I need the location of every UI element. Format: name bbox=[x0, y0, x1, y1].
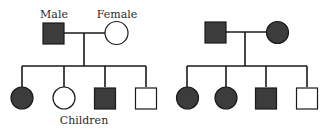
child-female-unaffected bbox=[53, 87, 75, 109]
child-female-affected bbox=[177, 87, 199, 109]
child-male-affected bbox=[95, 88, 116, 109]
family-right bbox=[177, 22, 318, 110]
parent-male-affected bbox=[43, 23, 64, 44]
parent-male-affected bbox=[205, 22, 226, 43]
pedigree-diagram: Male Female Children bbox=[0, 0, 326, 129]
child-male-unaffected bbox=[136, 88, 157, 109]
child-male-unaffected bbox=[297, 88, 318, 109]
child-female-affected bbox=[11, 87, 33, 109]
male-label: Male bbox=[40, 8, 68, 21]
family-left: Male Female Children bbox=[11, 8, 157, 127]
female-label: Female bbox=[97, 8, 138, 21]
child-male-affected bbox=[256, 88, 277, 109]
children-label: Children bbox=[60, 114, 108, 127]
child-female-affected bbox=[215, 87, 237, 109]
parent-female-affected bbox=[267, 22, 289, 44]
parent-female-unaffected bbox=[105, 22, 128, 45]
